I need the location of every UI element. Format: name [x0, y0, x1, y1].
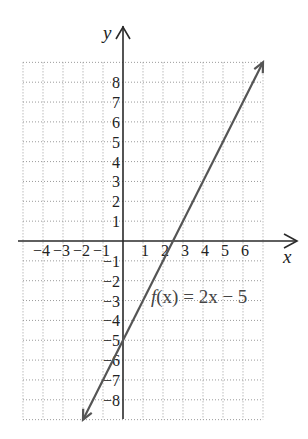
x-tick-label: 3: [181, 242, 189, 259]
x-tick-label: 4: [201, 242, 209, 259]
y-tick-label: 7: [112, 94, 120, 111]
y-tick-label: −4: [103, 312, 120, 329]
x-tick-label: 1: [141, 242, 149, 259]
y-tick-label: −6: [103, 352, 120, 369]
function-graph: −4−3−2−1123456 87654321−1−2−3−4−5−6−7−8 …: [0, 0, 308, 439]
y-tick-label: −1: [103, 253, 120, 270]
y-tick-label: 2: [112, 193, 120, 210]
y-axis-label: y: [101, 22, 112, 43]
x-axis-label: x: [282, 246, 292, 267]
y-tick-label: −3: [103, 293, 120, 310]
x-tick-label: −4: [33, 242, 50, 259]
x-tick-label: −2: [73, 242, 90, 259]
y-tick-label: 5: [112, 134, 120, 151]
x-tick-label: 6: [241, 242, 249, 259]
y-tick-label: 6: [112, 114, 120, 131]
y-tick-label: 4: [112, 154, 120, 171]
y-tick-label: 1: [112, 213, 120, 230]
y-tick-label: −2: [103, 273, 120, 290]
x-tick-label: −3: [53, 242, 70, 259]
function-label: f(x) = 2x − 5: [151, 286, 247, 308]
x-tick-labels: −4−3−2−1123456: [33, 242, 249, 259]
y-tick-label: −8: [103, 392, 120, 409]
y-tick-label: −5: [103, 332, 120, 349]
y-tick-label: 3: [112, 173, 120, 190]
y-tick-label: 8: [112, 74, 120, 91]
x-tick-label: 5: [221, 242, 229, 259]
